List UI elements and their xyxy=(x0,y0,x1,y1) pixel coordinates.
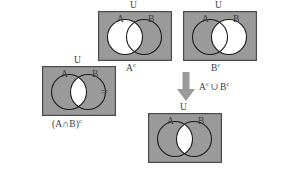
diagram-a-complement: U A B Ac xyxy=(98,11,172,61)
universe-label: U xyxy=(180,103,187,113)
diagram-b-complement: U A B Bc xyxy=(183,11,257,61)
set-label-b: B xyxy=(198,117,204,127)
universe-label: U xyxy=(74,56,81,66)
arrow-shape xyxy=(177,72,195,101)
down-arrow-icon xyxy=(176,72,196,106)
universe-label: U xyxy=(130,1,137,11)
set-label-a: A xyxy=(202,15,209,25)
universe-label: U xyxy=(215,1,222,11)
label-a-complement-union-b-complement: Ac∪Bc xyxy=(199,83,229,93)
a-complement-svg xyxy=(98,11,172,61)
diagram-a-complement-union-b-complement: U A B xyxy=(148,113,222,163)
down-arrow-svg xyxy=(176,72,196,102)
caption-b-complement: Bc xyxy=(211,64,220,74)
b-complement-svg xyxy=(183,11,257,61)
set-label-a: A xyxy=(117,15,124,25)
set-label-b: B xyxy=(92,70,98,80)
venn-identity-figure: U A B Ac U A B Bc xyxy=(0,0,284,175)
caption-a-intersect-b-complement: (A∩B)c xyxy=(52,120,82,130)
caption-a-complement: Ac xyxy=(126,64,136,74)
set-label-a: A xyxy=(61,70,68,80)
union-result-svg xyxy=(148,113,222,163)
equals-sign: = xyxy=(101,85,108,98)
set-label-a: A xyxy=(167,117,174,127)
set-label-b: B xyxy=(233,15,239,25)
set-label-b: B xyxy=(148,15,154,25)
